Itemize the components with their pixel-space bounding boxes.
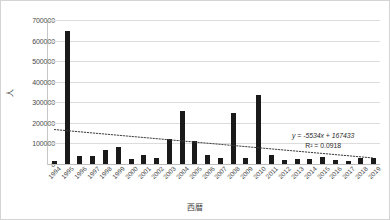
trendline-equation-annotation: y = -5534x + 167433 R² = 0.0918 <box>292 131 354 151</box>
trendline-equation: y = -5534x + 167433 <box>292 131 354 141</box>
y-axis-title: 人 <box>4 89 15 97</box>
x-axis-tick-labels: 1994199519961997199819992000200120022003… <box>48 165 380 201</box>
trendline-r-squared: R² = 0.0918 <box>292 141 354 151</box>
x-axis-title: 西暦 <box>1 201 389 212</box>
bar-chart: 0100000200000300000400000500000600000700… <box>0 0 390 220</box>
